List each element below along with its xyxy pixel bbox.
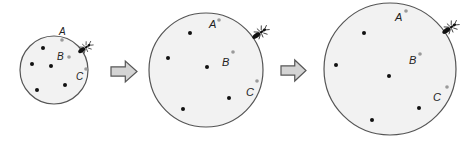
- galaxy-dot: [227, 96, 231, 100]
- balloon-medium: ABC: [149, 13, 271, 127]
- galaxy-dot: [181, 107, 185, 111]
- galaxy-dot: [362, 31, 366, 35]
- galaxy-dot: [166, 56, 170, 60]
- point-label-c: C: [76, 71, 84, 82]
- galaxy-dot: [205, 65, 209, 69]
- point-label-b: B: [222, 56, 229, 68]
- point-label-c: C: [246, 86, 254, 98]
- point-label-a: A: [394, 11, 402, 23]
- point-label-b: B: [57, 51, 64, 62]
- galaxy-dot: [334, 63, 338, 67]
- marked-point-dot: [404, 9, 408, 13]
- balloon-circle: [149, 13, 263, 127]
- point-label-a: A: [208, 18, 216, 30]
- balloon-small: ABC: [20, 26, 95, 104]
- marked-point-dot: [67, 55, 71, 59]
- marked-point-dot: [217, 18, 221, 22]
- point-label-b: B: [409, 54, 416, 66]
- marked-point-dot: [60, 38, 64, 42]
- point-label-a: A: [58, 26, 66, 37]
- marked-point-dot: [255, 79, 259, 83]
- galaxy-dot: [188, 31, 192, 35]
- right-arrow-icon: [281, 60, 306, 81]
- balloon-circle: [20, 36, 88, 104]
- galaxy-dot: [35, 88, 39, 92]
- point-label-c: C: [433, 91, 441, 103]
- balloon-circle: [324, 3, 456, 135]
- galaxy-dot: [370, 118, 374, 122]
- galaxy-dot: [63, 83, 67, 87]
- right-arrow-icon: [111, 61, 137, 82]
- balloon-large: ABC: [324, 3, 461, 135]
- balloon-expansion-diagram: ABCABCABC: [0, 0, 476, 142]
- marked-point-dot: [445, 85, 449, 89]
- galaxy-dot: [30, 62, 34, 66]
- galaxy-dot: [49, 64, 53, 68]
- galaxy-dot: [417, 106, 421, 110]
- marked-point-dot: [84, 67, 88, 71]
- galaxy-dot: [387, 74, 391, 78]
- galaxy-dot: [41, 46, 45, 50]
- marked-point-dot: [418, 52, 422, 56]
- marked-point-dot: [231, 50, 235, 54]
